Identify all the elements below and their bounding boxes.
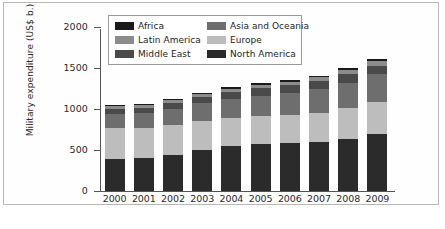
y-axis-tick-label: 2000 <box>34 21 88 32</box>
bar-stack <box>338 68 358 191</box>
bar-segment <box>367 66 387 74</box>
caption-strip <box>0 207 445 229</box>
x-axis-tick-label: 2008 <box>334 193 363 204</box>
bar-segment <box>192 103 212 121</box>
bar-segment <box>192 150 212 191</box>
x-axis-tick-label: 2007 <box>304 193 333 204</box>
legend-entry: Latin America <box>115 35 207 45</box>
x-axis-line <box>100 191 395 192</box>
bar-segment <box>105 128 125 159</box>
bar-segment <box>251 144 271 191</box>
bar-stack <box>163 99 183 191</box>
x-axis-tick-label: 2006 <box>275 193 304 204</box>
bar-stack <box>309 76 329 192</box>
bar-segment <box>134 128 154 158</box>
bar-segment <box>221 146 241 191</box>
bar-stack <box>134 104 154 191</box>
bar-segment <box>309 81 329 89</box>
legend-entry: Europe <box>207 35 305 45</box>
legend-swatch-icon <box>207 50 226 58</box>
bar-segment <box>134 158 154 191</box>
y-axis-tick-label: 0 <box>34 185 88 196</box>
bar-segment <box>280 93 300 115</box>
bar-segment <box>338 83 358 108</box>
y-axis-tick-label: 1000 <box>34 103 88 114</box>
bar-segment <box>338 74 358 83</box>
bar-segment <box>105 114 125 128</box>
bar-segment <box>367 102 387 134</box>
bar-segment <box>134 113 154 128</box>
bar-segment <box>280 115 300 143</box>
bar-segment <box>163 109 183 126</box>
bar-stack <box>192 93 212 191</box>
x-axis-tick-label: 2000 <box>100 193 129 204</box>
y-axis-tick-label: 500 <box>34 144 88 155</box>
bar-segment <box>105 159 125 191</box>
bar-segment <box>338 108 358 139</box>
bar-segment <box>163 155 183 191</box>
legend-grid: AfricaAsia and OceaniaLatin AmericaEurop… <box>115 19 297 61</box>
bar-segment <box>367 74 387 102</box>
legend-entry: Asia and Oceania <box>207 21 305 31</box>
bar-segment <box>221 99 241 118</box>
bar-segment <box>163 125 183 154</box>
bar-segment <box>192 121 212 149</box>
legend-entry: North America <box>207 49 305 59</box>
legend-label: Middle East <box>138 49 191 59</box>
bar-segment <box>309 142 329 191</box>
bar-stack <box>367 59 387 191</box>
bar-segment <box>309 113 329 142</box>
x-axis-tick-label: 2009 <box>363 193 392 204</box>
bar-segment <box>280 85 300 93</box>
bar-segment <box>251 96 271 117</box>
legend-label: Africa <box>138 21 164 31</box>
x-axis-tick-label: 2001 <box>129 193 158 204</box>
bar-segment <box>280 143 300 191</box>
legend-swatch-icon <box>115 50 134 58</box>
bar-segment <box>251 116 271 144</box>
bar-segment <box>309 89 329 113</box>
bar-segment <box>251 88 271 95</box>
bar-segment <box>221 92 241 99</box>
legend-swatch-icon <box>115 36 134 44</box>
bar-stack <box>251 83 271 191</box>
legend-label: Europe <box>230 35 262 45</box>
chart-legend: AfricaAsia and OceaniaLatin AmericaEurop… <box>108 15 302 65</box>
y-axis-tick-label: 1500 <box>34 62 88 73</box>
bar-stack <box>105 105 125 191</box>
legend-entry: Middle East <box>115 49 207 59</box>
legend-entry: Africa <box>115 21 207 31</box>
x-axis-tick-label: 2005 <box>246 193 275 204</box>
x-axis-tick-label: 2004 <box>217 193 246 204</box>
legend-label: Latin America <box>138 35 201 45</box>
bar-stack <box>221 87 241 191</box>
legend-label: Asia and Oceania <box>230 21 309 31</box>
bar-segment <box>367 134 387 191</box>
y-axis-tick <box>94 191 101 192</box>
chart-figure: Military expenditure (US$ b.) 0500100015… <box>3 2 439 205</box>
legend-label: North America <box>230 49 296 59</box>
legend-swatch-icon <box>207 22 226 30</box>
bar-segment <box>221 118 241 146</box>
legend-swatch-icon <box>207 36 226 44</box>
x-axis-tick-label: 2002 <box>158 193 187 204</box>
bar-segment <box>338 139 358 191</box>
x-axis-tick-label: 2003 <box>188 193 217 204</box>
legend-swatch-icon <box>115 22 134 30</box>
bar-stack <box>280 80 300 191</box>
